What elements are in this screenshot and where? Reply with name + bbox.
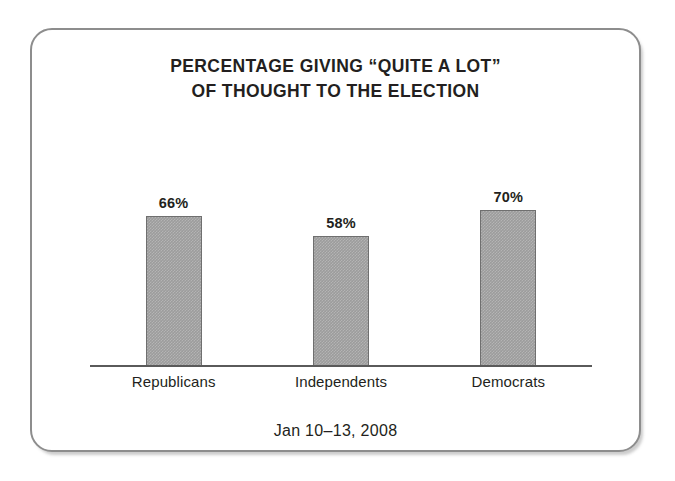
chart-title-line-1: PERCENTAGE GIVING “QUITE A LOT” <box>32 54 639 79</box>
bar-value-label: 58% <box>326 215 356 231</box>
bar-series: 66% 58% 70% <box>90 150 592 365</box>
chart-stage: PERCENTAGE GIVING “QUITE A LOT” OF THOUG… <box>0 0 675 481</box>
category-label-democrats: Democrats <box>428 373 588 390</box>
bar-group-independents: 58% <box>261 150 421 365</box>
x-axis-line <box>90 365 592 367</box>
category-label-republicans: Republicans <box>94 373 254 390</box>
bar-group-democrats: 70% <box>428 150 588 365</box>
bar-democrats <box>480 210 536 365</box>
chart-title: PERCENTAGE GIVING “QUITE A LOT” OF THOUG… <box>32 54 639 104</box>
bar-value-label: 70% <box>494 189 524 205</box>
bar-group-republicans: 66% <box>94 150 254 365</box>
chart-card: PERCENTAGE GIVING “QUITE A LOT” OF THOUG… <box>30 28 641 452</box>
bar-value-label: 66% <box>159 195 189 211</box>
bar-republicans <box>146 216 202 365</box>
chart-date-caption: Jan 10–13, 2008 <box>32 422 639 440</box>
x-axis-category-labels: Republicans Independents Democrats <box>90 373 592 390</box>
bar-independents <box>313 236 369 365</box>
chart-title-line-2: OF THOUGHT TO THE ELECTION <box>32 79 639 104</box>
category-label-independents: Independents <box>261 373 421 390</box>
